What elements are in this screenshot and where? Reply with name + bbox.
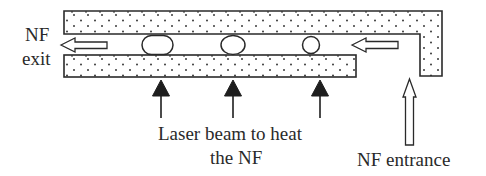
entrance-arrow-icon — [403, 79, 416, 145]
laser-arrow-icon — [312, 80, 329, 118]
bottom-wall — [64, 55, 356, 77]
laser-label-line1: Laser beam to heat — [158, 124, 302, 143]
bubble-medium — [221, 36, 245, 55]
laser-arrow-icon — [225, 80, 242, 118]
bubble-small — [303, 37, 320, 54]
exit-label-line2: exit — [22, 49, 51, 68]
bubbles — [142, 36, 320, 55]
entrance-label: NF entrance — [357, 150, 450, 169]
exit-flow-arrow-icon — [61, 38, 107, 52]
exit-label-line1: NF — [25, 25, 49, 44]
inlet-flow-arrow-icon — [352, 38, 398, 52]
bubble-large — [142, 36, 173, 55]
laser-arrows — [153, 80, 329, 118]
nanofluid-channel-diagram: NF exit Laser beam to heat the NF NF ent… — [0, 0, 486, 176]
laser-label-line2: the NF — [210, 148, 262, 167]
laser-arrow-icon — [153, 80, 170, 118]
